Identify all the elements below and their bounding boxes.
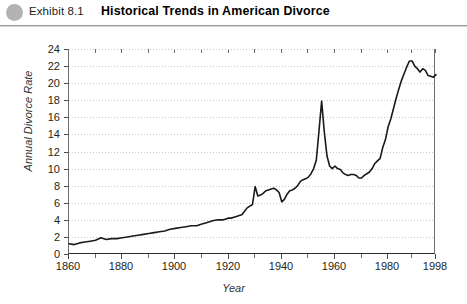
x-axis-title: Year — [0, 282, 467, 294]
x-tick-minor — [307, 254, 308, 258]
x-tick-mark — [281, 254, 282, 259]
x-tick-mark — [387, 254, 388, 259]
x-tick-label: 1940 — [269, 261, 293, 272]
x-tick-mark — [435, 254, 436, 259]
y-tick-label: 16 — [28, 112, 60, 123]
y-tick-label: 10 — [28, 164, 60, 175]
x-tick-minor — [361, 254, 362, 258]
circle-bullet-icon — [6, 4, 23, 21]
x-tick-minor — [411, 254, 412, 258]
y-tick-label: 12 — [28, 147, 60, 158]
data-series-line — [69, 61, 436, 245]
y-tick-label: 20 — [28, 78, 60, 89]
y-tick-label: 2 — [28, 232, 60, 243]
exhibit-number-label: Exhibit 8.1 — [29, 5, 84, 17]
x-tick-label: 1960 — [322, 261, 346, 272]
x-tick-mark — [68, 254, 69, 259]
x-tick-mark — [174, 254, 175, 259]
exhibit-header: Exhibit 8.1 Historical Trends in America… — [0, 0, 467, 27]
x-tick-minor — [254, 254, 255, 258]
x-tick-label: 1998 — [423, 261, 447, 272]
y-tick-label: 0 — [28, 249, 60, 260]
y-tick-label: 18 — [28, 95, 60, 106]
x-tick-label: 1860 — [56, 261, 80, 272]
y-tick-label: 4 — [28, 215, 60, 226]
y-tick-label: 6 — [28, 198, 60, 209]
x-tick-label: 1920 — [216, 261, 240, 272]
x-tick-minor — [95, 254, 96, 258]
y-tick-label: 8 — [28, 181, 60, 192]
x-tick-mark — [121, 254, 122, 259]
y-tick-label: 22 — [28, 61, 60, 72]
y-tick-label: 14 — [28, 129, 60, 140]
y-tick-label: 24 — [28, 44, 60, 55]
x-tick-minor — [201, 254, 202, 258]
x-tick-minor — [148, 254, 149, 258]
chart-container: Annual Divorce Rate 02468101214161820222… — [0, 27, 467, 304]
x-tick-label: 1900 — [162, 261, 186, 272]
x-tick-label: 1980 — [375, 261, 399, 272]
x-tick-mark — [228, 254, 229, 259]
x-tick-label: 1880 — [109, 261, 133, 272]
divorce-rate-line-chart — [69, 49, 436, 254]
page-title: Historical Trends in American Divorce — [101, 4, 330, 18]
plot-area — [68, 49, 435, 254]
x-tick-mark — [334, 254, 335, 259]
